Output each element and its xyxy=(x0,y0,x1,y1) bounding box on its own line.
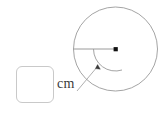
center-point-dot xyxy=(114,47,118,51)
geometry-question-figure: cm xyxy=(0,0,166,115)
leader-line xyxy=(77,67,98,92)
unit-label: cm xyxy=(57,76,75,92)
answer-input[interactable] xyxy=(16,66,54,103)
leader-arrowhead-icon xyxy=(95,65,100,70)
